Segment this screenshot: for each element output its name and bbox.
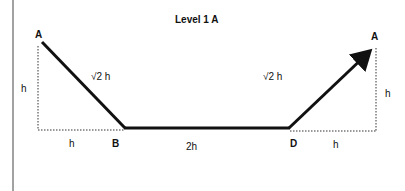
segment-a-to-b bbox=[42, 42, 125, 128]
point-label-d: D bbox=[290, 138, 297, 149]
trajectory-diagram: Level 1 A A B D A h √2 h √2 h h h 2h h bbox=[0, 0, 405, 191]
label-left-height: h bbox=[21, 83, 27, 94]
segment-d-to-a bbox=[289, 53, 368, 128]
point-label-start: A bbox=[35, 29, 42, 40]
label-middle-base: 2h bbox=[186, 141, 197, 152]
point-label-b: B bbox=[112, 138, 119, 149]
label-right-hypotenuse: √2 h bbox=[263, 71, 282, 82]
label-left-hypotenuse: √2 h bbox=[91, 71, 110, 82]
label-left-base: h bbox=[69, 138, 75, 149]
label-right-base: h bbox=[333, 139, 339, 150]
label-right-height: h bbox=[385, 88, 391, 99]
diagram-title: Level 1 A bbox=[175, 14, 219, 25]
point-label-end: A bbox=[371, 31, 378, 42]
